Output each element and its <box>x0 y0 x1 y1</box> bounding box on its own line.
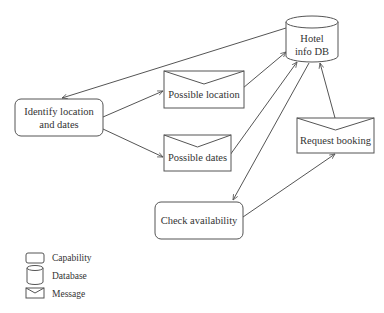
legend-item-capability: Capability <box>26 253 92 263</box>
db-label-line1: Hotel <box>300 33 323 44</box>
database-icon <box>27 266 43 285</box>
diagram-canvas: Hotel info DB Identify location and date… <box>0 0 384 313</box>
request-booking-label: Request booking <box>300 135 372 146</box>
edge-location-to-db <box>243 52 286 88</box>
legend-label-message: Message <box>52 289 85 299</box>
edge-check-to-request <box>243 154 335 217</box>
edge-identify-to-dates <box>103 129 163 157</box>
capability-icon <box>26 253 44 263</box>
node-possible-dates: Possible dates <box>164 135 231 171</box>
message-icon <box>26 288 44 298</box>
database-top <box>286 16 338 28</box>
identify-label-line2: and dates <box>39 119 78 130</box>
node-identify-location-dates: Identify location and dates <box>15 99 103 136</box>
possible-dates-label: Possible dates <box>168 152 227 163</box>
legend: Capability Database Message <box>26 253 92 299</box>
possible-location-label: Possible location <box>168 89 240 100</box>
legend-label-database: Database <box>52 271 87 281</box>
node-request-booking: Request booking <box>297 118 374 153</box>
identify-label-line1: Identify location <box>24 106 94 117</box>
legend-label-capability: Capability <box>52 253 92 263</box>
node-hotel-db: Hotel info DB <box>286 16 338 62</box>
db-label-line2: info DB <box>295 46 329 57</box>
node-possible-location: Possible location <box>164 71 244 108</box>
edge-identify-to-location <box>103 91 163 117</box>
check-availability-label: Check availability <box>161 215 238 226</box>
edge-request-to-db <box>320 63 335 118</box>
node-check-availability: Check availability <box>155 202 243 239</box>
capability-box <box>15 99 103 136</box>
legend-item-database: Database <box>27 266 87 285</box>
legend-item-message: Message <box>26 288 85 299</box>
